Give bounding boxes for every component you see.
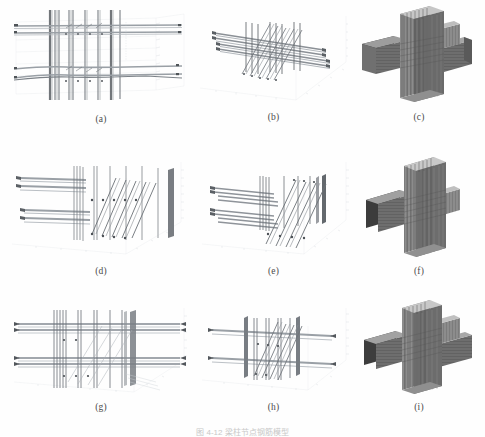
panel-f-render	[356, 148, 482, 266]
panel-caption-a: (a)	[6, 114, 196, 124]
panel-d-plot	[6, 148, 196, 266]
panel-b: (b)	[196, 0, 351, 112]
panel-caption-f: (f)	[356, 266, 482, 276]
panel-caption-b: (b)	[196, 112, 351, 122]
figure-row-3: (g)	[0, 296, 485, 422]
panel-g-plot	[6, 296, 196, 402]
panel-e-plot	[196, 148, 351, 266]
panel-caption-g: (g)	[6, 402, 196, 412]
figure-caption: 图 4-12 梁柱节点钢筋模型	[0, 426, 485, 437]
figure-row-2: (d)	[0, 148, 485, 286]
panel-e: (e)	[196, 148, 351, 266]
panel-caption-i: (i)	[356, 402, 482, 412]
panel-d: (d)	[6, 148, 196, 266]
panel-a: (a)	[6, 0, 196, 112]
panel-caption-h: (h)	[196, 402, 351, 412]
panel-i-render	[356, 296, 482, 402]
panel-caption-d: (d)	[6, 266, 196, 276]
panel-caption-c: (c)	[356, 112, 482, 122]
panel-c: (c)	[356, 0, 482, 112]
panel-h-plot	[196, 296, 351, 402]
panel-b-plot	[196, 0, 351, 112]
panel-caption-e: (e)	[196, 266, 351, 276]
panel-i: (i)	[356, 296, 482, 402]
figure-row-1: (a)	[0, 0, 485, 138]
panel-c-render	[356, 0, 482, 112]
panel-a-plot	[6, 0, 196, 112]
panel-g: (g)	[6, 296, 196, 402]
panel-h: (h)	[196, 296, 351, 402]
panel-f: (f)	[356, 148, 482, 266]
